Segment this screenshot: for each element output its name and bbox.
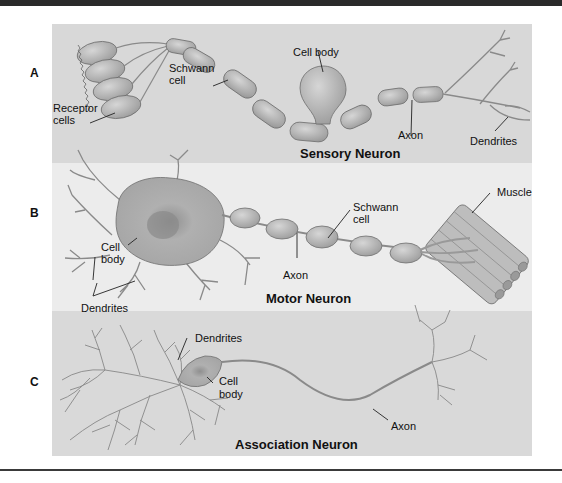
neuron-illustrations (0, 0, 562, 483)
label-axon-a: Axon (398, 129, 423, 141)
label-cell-body-b-2: body (101, 253, 125, 265)
label-axon-c: Axon (391, 420, 416, 432)
label-cell-body-a: Cell body (293, 46, 339, 58)
label-dendrites-b: Dendrites (81, 302, 128, 314)
label-schwann-cell-b-1: Schwann (353, 201, 398, 213)
label-receptor-cells-1: Receptor (53, 102, 98, 114)
label-dendrites-a: Dendrites (470, 135, 517, 147)
label-dendrites-c: Dendrites (195, 332, 242, 344)
motor-neuron-art (65, 150, 532, 308)
label-schwann-cell-b-2: cell (353, 213, 370, 225)
panel-letter-c: C (30, 375, 39, 389)
title-association-neuron: Association Neuron (235, 437, 358, 452)
label-schwann-cell-a-2: cell (169, 74, 186, 86)
title-sensory-neuron: Sensory Neuron (300, 146, 400, 161)
title-motor-neuron: Motor Neuron (266, 291, 351, 306)
label-axon-b: Axon (283, 269, 308, 281)
association-neuron-art (60, 305, 487, 450)
bottom-rule (0, 469, 562, 471)
label-muscle: Muscle (497, 186, 532, 198)
panel-letter-a: A (30, 66, 39, 80)
label-cell-body-b-1: Cell (101, 241, 120, 253)
label-cell-body-c-2: body (219, 388, 243, 400)
label-cell-body-c-1: Cell (219, 375, 238, 387)
label-receptor-cells-2: cells (53, 114, 75, 126)
label-schwann-cell-a-1: Schwann (169, 62, 214, 74)
panel-letter-b: B (30, 206, 39, 220)
